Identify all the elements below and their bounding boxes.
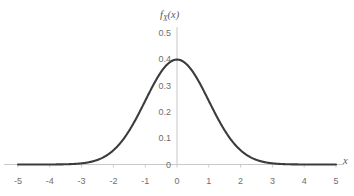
- x-tick-label: -2: [109, 177, 117, 186]
- x-tick-label: 1: [206, 177, 211, 186]
- x-tick-label: -4: [46, 177, 54, 186]
- x-tick-label: -5: [14, 177, 22, 186]
- y-tick-label: 0.3: [0, 81, 171, 90]
- x-tick-label: 2: [238, 177, 243, 186]
- y-tick-label: 0.5: [0, 29, 171, 38]
- y-tick-label: 0.2: [0, 107, 171, 116]
- x-tick-label: 0: [174, 177, 179, 186]
- normal-distribution-figure: 00.10.20.30.40.5 -5-4-3-2-1012345 fX(x) …: [0, 0, 354, 196]
- x-axis-title: x: [343, 156, 348, 167]
- y-axis-argument: (x): [168, 9, 180, 20]
- y-tick-label: 0.4: [0, 55, 171, 64]
- x-tick-label: -3: [78, 177, 86, 186]
- y-tick-label: 0: [0, 160, 171, 169]
- x-tick-label: -1: [141, 177, 149, 186]
- x-tick-label: 3: [270, 177, 275, 186]
- x-tick-label: 5: [333, 177, 338, 186]
- x-tick-label: 4: [302, 177, 307, 186]
- y-tick-label: 0.1: [0, 134, 171, 143]
- y-axis-title: fX(x): [160, 10, 179, 23]
